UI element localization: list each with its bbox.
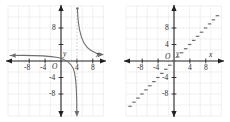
right-ytick--8: -8: [162, 90, 168, 98]
right-x-axis-label: x: [209, 51, 212, 59]
left-ytick--8: -8: [49, 90, 55, 98]
right-ytick-4: 4: [165, 41, 169, 49]
left-xtick--8: -8: [24, 64, 30, 72]
left-x-axis-label: x: [96, 51, 99, 59]
right-xtick-4: 4: [188, 64, 192, 72]
left-graph-panel: y x O -8 -4 4 8 8 -4 -8: [0, 0, 112, 122]
right-xtick-8: 8: [204, 64, 208, 72]
curve-left-arrow: [10, 53, 16, 58]
right-y-axis-label: y: [176, 50, 179, 58]
curve-top-endpoint: [76, 7, 78, 9]
curve-right-branch: [77, 9, 102, 55]
right-ytick--4: -4: [162, 74, 168, 82]
right-ytick-8: 8: [165, 24, 169, 32]
two-graph-figure: y x O -8 -4 4 8 8 -4 -8: [0, 0, 230, 122]
left-xtick--4: -4: [40, 64, 46, 72]
left-ytick--4: -4: [49, 74, 55, 82]
left-y-axis-label: y: [63, 50, 66, 58]
left-graph-svg: [0, 0, 112, 122]
right-graph-panel: y x O -8 -4 4 8 8 4 -4 -8: [118, 0, 230, 122]
left-xtick-8: 8: [91, 64, 95, 72]
right-xtick--4: -4: [153, 64, 159, 72]
left-origin-label: O: [52, 63, 57, 71]
right-origin-label: O: [165, 53, 170, 61]
right-graph-svg: [118, 0, 230, 122]
left-xtick-4: 4: [75, 64, 79, 72]
right-xtick--8: -8: [137, 64, 143, 72]
left-ytick-8: 8: [52, 24, 56, 32]
